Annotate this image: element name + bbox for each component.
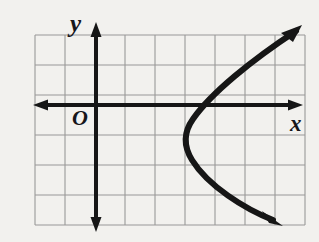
- x-axis-label: x: [290, 112, 302, 135]
- graph-figure: y x O: [0, 0, 319, 242]
- parabola-path: [186, 31, 296, 220]
- coordinate-graph-svg: [0, 0, 319, 242]
- x-axis-right-arrowhead-icon: [288, 100, 303, 111]
- y-axis-up-arrowhead-icon: [91, 22, 102, 37]
- parabola-curve: [186, 25, 302, 226]
- y-axis: [91, 22, 102, 232]
- origin-label: O: [72, 107, 88, 129]
- y-axis-label: y: [70, 11, 81, 36]
- grid-lines: [35, 35, 305, 225]
